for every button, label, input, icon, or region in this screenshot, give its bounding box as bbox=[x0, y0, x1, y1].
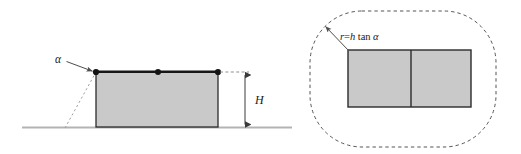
right-panel-plan-view: r=htanα bbox=[310, 11, 496, 147]
angle-label: α bbox=[55, 53, 62, 65]
left-panel-elevation-view: α H bbox=[22, 53, 292, 128]
figure-root: α H r=htanα bbox=[0, 0, 521, 154]
height-label: H bbox=[254, 93, 265, 107]
block-elevation bbox=[96, 72, 218, 127]
radius-formula-angle: α bbox=[373, 31, 379, 42]
radius-formula-label: r=htanα bbox=[340, 31, 379, 42]
node-left bbox=[93, 69, 99, 75]
node-middle bbox=[155, 69, 161, 75]
block-plan-footprint bbox=[348, 50, 471, 107]
radius-formula-function: tan bbox=[358, 31, 372, 42]
angle-label-leader-line bbox=[67, 62, 93, 72]
radius-formula-height-symbol: h bbox=[350, 31, 355, 42]
angle-ray-dashed-line bbox=[65, 72, 96, 128]
diagram-canvas: α H r=htanα bbox=[0, 0, 521, 154]
